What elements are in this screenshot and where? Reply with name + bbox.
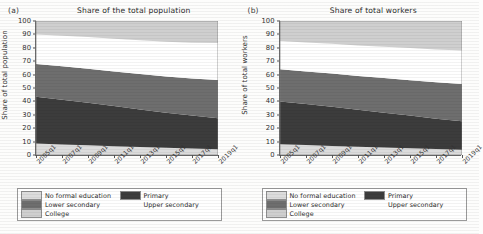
y-tick-label: 0	[270, 151, 274, 159]
legend-swatch-college	[21, 209, 42, 218]
panel-a-legend: No formal educationPrimaryLower secondar…	[17, 188, 222, 221]
y-tick-label: 80	[22, 44, 31, 52]
x-tick-label: 2019q1	[217, 143, 239, 165]
panel-a-legend-item: Upper secondary	[120, 200, 219, 209]
legend-swatch-primary	[364, 191, 385, 200]
panel-b-title: Share of total workers	[274, 6, 474, 15]
legend-swatch-upper-secondary	[120, 200, 141, 209]
legend-label: Primary	[144, 192, 169, 200]
panel-b: (b) Share of total workers Share of tota…	[240, 0, 480, 234]
panel-a-area-bands	[36, 21, 218, 155]
y-tick-label: 90	[266, 30, 275, 38]
panel-a-y-axis: 0102030405060708090100	[0, 21, 36, 155]
panel-b-y-axis: 0102030405060708090100	[240, 21, 280, 155]
legend-label: No formal education	[290, 192, 356, 200]
y-tick-label: 40	[266, 97, 275, 105]
panel-b-legend-item: Primary	[364, 191, 463, 200]
panel-a-x-axis: 2005q12007q12009q12011q12013q12015q12017…	[36, 155, 218, 185]
y-tick-label: 70	[266, 57, 275, 65]
y-tick-label: 20	[22, 124, 31, 132]
y-tick-label: 60	[266, 71, 275, 79]
panel-a-legend-item: Lower secondary	[21, 200, 120, 209]
y-tick-label: 100	[262, 17, 275, 25]
legend-label: Upper secondary	[388, 201, 443, 209]
legend-swatch-lower-secondary	[266, 200, 287, 209]
legend-swatch-lower-secondary	[21, 200, 42, 209]
legend-swatch-no-formal-education	[21, 191, 42, 200]
y-tick-label: 50	[266, 84, 275, 92]
y-tick-label: 20	[266, 124, 275, 132]
y-tick-label: 10	[22, 138, 31, 146]
y-tick-label: 50	[22, 84, 31, 92]
panel-a: (a) Share of the total population Share …	[0, 0, 240, 234]
panel-a-title: Share of the total population	[34, 6, 234, 15]
legend-label: College	[290, 210, 314, 218]
panel-a-legend-item: Primary	[120, 191, 219, 200]
y-tick-label: 80	[266, 44, 275, 52]
panel-b-x-axis: 2005q12007q12009q12011q12013q12015q12017…	[280, 155, 462, 185]
legend-label: College	[45, 210, 69, 218]
y-tick-label: 0	[27, 151, 31, 159]
y-tick-label: 60	[22, 71, 31, 79]
panel-a-legend-item: College	[21, 209, 120, 218]
legend-swatch-upper-secondary	[364, 200, 385, 209]
legend-swatch-primary	[120, 191, 141, 200]
panel-b-area-bands	[280, 21, 462, 155]
legend-label: Lower secondary	[290, 201, 345, 209]
legend-label: No formal education	[45, 192, 111, 200]
legend-swatch-no-formal-education	[266, 191, 287, 200]
legend-label: Upper secondary	[144, 201, 199, 209]
y-tick-label: 70	[22, 57, 31, 65]
y-tick-label: 30	[266, 111, 275, 119]
y-tick-label: 40	[22, 97, 31, 105]
y-tick-label: 90	[22, 30, 31, 38]
legend-swatch-college	[266, 209, 287, 218]
panel-b-legend-item: No formal education	[266, 191, 365, 200]
y-tick-label: 100	[18, 17, 31, 25]
y-tick-label: 30	[22, 111, 31, 119]
panel-b-plot-area	[280, 21, 462, 155]
panel-b-legend-item: Upper secondary	[364, 200, 463, 209]
legend-label: Primary	[388, 192, 413, 200]
panel-a-legend-item: No formal education	[21, 191, 120, 200]
x-tick-label: 2019q1	[461, 143, 483, 165]
panel-a-plot-area	[36, 21, 218, 155]
panel-b-legend-item: Lower secondary	[266, 200, 365, 209]
y-tick-label: 10	[266, 138, 275, 146]
legend-label: Lower secondary	[45, 201, 100, 209]
panel-b-legend: No formal educationPrimaryLower secondar…	[262, 188, 467, 221]
panel-b-legend-item: College	[266, 209, 365, 218]
